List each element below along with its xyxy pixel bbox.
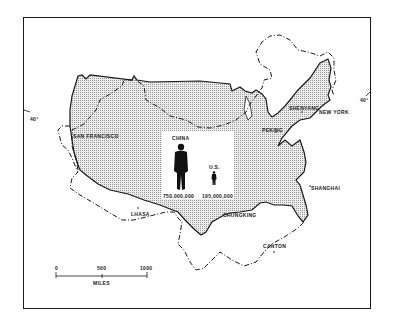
latitude-tick-right — [366, 92, 370, 96]
scale-tick-500: 500 — [97, 265, 106, 271]
scale-tick-0: 0 — [55, 265, 58, 271]
us-label: U.S. — [209, 164, 220, 170]
city-new-york: NEW YORK — [319, 109, 349, 115]
population-inset: CHINA U.S. 750,000,000 195,000,000 — [162, 131, 234, 199]
china-figure-icon — [172, 143, 190, 191]
city-canton: CANTON — [263, 243, 286, 249]
city-peking: PEKING — [262, 127, 283, 133]
latitude-label-left: 40° — [30, 116, 38, 122]
scale-unit: MILES — [93, 280, 110, 286]
city-lhasa: LHASA — [131, 211, 150, 217]
us-population: 195,000,000 — [202, 193, 233, 199]
city-shanghai: SHANGHAI — [311, 185, 340, 191]
china-population: 750,000,000 — [163, 193, 194, 199]
city-shenyang: SHENYANG — [289, 105, 319, 111]
scale-bar — [56, 272, 147, 278]
city-san-francisco: SAN FRANCISCO — [73, 133, 119, 139]
latitude-tick-left — [24, 110, 30, 112]
latitude-label-right: 40° — [360, 97, 368, 103]
china-label: CHINA — [172, 135, 189, 141]
us-figure-icon — [211, 171, 217, 185]
scale-tick-1000: 1000 — [140, 265, 152, 271]
city-chungking: CHUNGKING — [223, 212, 257, 218]
